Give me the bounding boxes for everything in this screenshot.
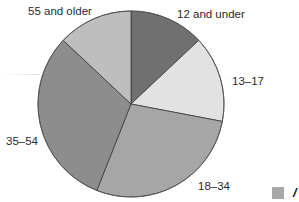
pie-slices [38,11,224,197]
label-12-and-under: 12 and under [177,9,245,21]
legend-swatch [272,187,284,199]
label-35-54: 35–54 [6,136,38,148]
label-18-34: 18–34 [198,181,230,193]
label-55-and-older: 55 and older [28,6,92,18]
label-13-17: 13–17 [232,76,264,88]
pie-chart [0,0,299,202]
legend-label-partial: / [293,186,297,199]
